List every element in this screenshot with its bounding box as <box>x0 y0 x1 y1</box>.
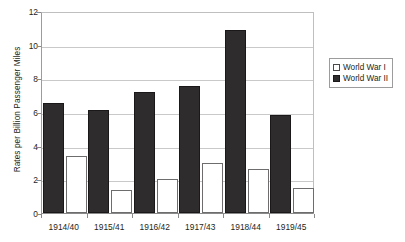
x-axis-tick-mark <box>41 214 42 218</box>
legend-item-label: World War I <box>343 63 386 73</box>
x-axis-tick-mark <box>314 214 315 218</box>
y-axis-tick-label: 6 <box>12 108 38 118</box>
x-axis-tick-label: 1919/45 <box>261 222 321 232</box>
bar-group <box>133 13 179 213</box>
bar-group <box>42 13 88 213</box>
y-axis-tick-label: 10 <box>12 41 38 51</box>
x-axis-tick-mark <box>178 214 179 218</box>
bar-world-war-1 <box>66 156 87 213</box>
plot-area <box>41 12 314 214</box>
y-axis-tick-label: 2 <box>12 175 38 185</box>
bar-group <box>88 13 134 213</box>
bar-chart: Rates per Billion Passenger Miles 024681… <box>0 0 405 242</box>
x-axis-tick-mark <box>269 214 270 218</box>
x-axis-tick-mark <box>223 214 224 218</box>
y-axis-tick-label: 12 <box>12 7 38 17</box>
legend-item-label: World War II <box>343 74 388 84</box>
bar-world-war-1 <box>157 179 178 214</box>
bar-world-war-1 <box>293 188 314 213</box>
bar-world-war-2 <box>88 110 109 213</box>
bar-world-war-2 <box>134 92 155 213</box>
bar-world-war-2 <box>43 103 64 213</box>
bar-group <box>179 13 225 213</box>
y-axis-tick-label: 0 <box>12 209 38 219</box>
x-axis-tick-mark <box>132 214 133 218</box>
bar-world-war-1 <box>202 163 223 213</box>
bar-group <box>224 13 270 213</box>
bar-world-war-2 <box>270 115 291 213</box>
y-axis-tick-label: 4 <box>12 142 38 152</box>
bar-world-war-1 <box>111 190 132 213</box>
legend-item: World War I <box>333 62 388 73</box>
y-axis-tick-label: 8 <box>12 74 38 84</box>
x-axis-tick-mark <box>87 214 88 218</box>
bar-world-war-1 <box>248 169 269 213</box>
hollow-square-swatch <box>333 64 340 71</box>
bar-group <box>270 13 316 213</box>
chart-legend: World War IWorld War II <box>329 58 393 88</box>
legend-item: World War II <box>333 73 388 84</box>
filled-square-swatch <box>333 75 340 82</box>
bar-world-war-2 <box>179 86 200 213</box>
bar-world-war-2 <box>225 30 246 213</box>
